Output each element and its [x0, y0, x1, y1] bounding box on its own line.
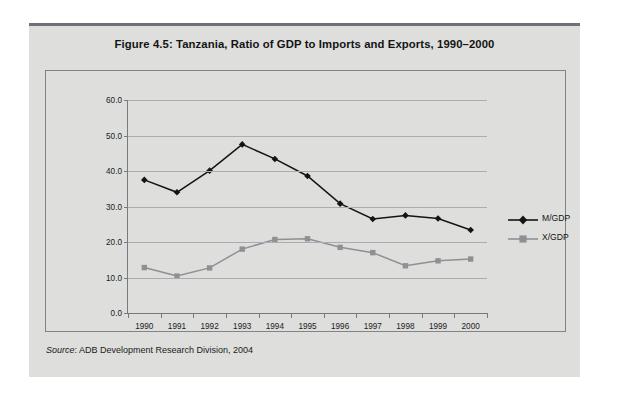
legend-item-x-gdp: X/GDP [508, 232, 588, 251]
y-axis-tick-label: 50.0 [106, 131, 122, 140]
y-axis-tick [124, 242, 128, 243]
legend-label-m-gdp: M/GDP [542, 213, 570, 223]
x-axis-tick-label: 1990 [135, 322, 153, 331]
source-text: : ADB Development Research Division, 200… [75, 345, 254, 355]
gridline [128, 207, 487, 208]
x-axis-tick-label: 1998 [396, 322, 414, 331]
x-axis-tick [291, 313, 292, 318]
y-axis-tick-label: 20.0 [106, 238, 122, 247]
x-axis-tick [226, 313, 227, 318]
x-axis-tick-label: 1991 [168, 322, 186, 331]
x-axis-tick-label: 2000 [462, 322, 480, 331]
data-point-marker [370, 250, 375, 255]
x-axis-tick-label: 1993 [233, 322, 251, 331]
legend-marker-diamond-icon [508, 213, 538, 227]
data-point-marker [435, 215, 442, 222]
gridline [128, 278, 487, 279]
gridline [128, 171, 487, 172]
x-axis-tick [324, 313, 325, 318]
figure-page: Figure 4.5: Tanzania, Ratio of GDP to Im… [0, 0, 618, 398]
data-point-marker [402, 212, 409, 219]
source-note: Source: ADB Development Research Divisio… [46, 345, 253, 355]
data-point-marker [240, 246, 245, 251]
plot-area: 0.010.020.030.040.050.060.01990199119921… [127, 100, 487, 314]
data-point-marker [369, 216, 376, 223]
gridline [128, 100, 487, 101]
x-axis-tick [356, 313, 357, 318]
y-axis-tick-label: 10.0 [106, 273, 122, 282]
data-point-marker [467, 227, 474, 234]
x-axis-tick-label: 1992 [200, 322, 218, 331]
data-point-marker [468, 256, 473, 261]
data-point-marker [141, 177, 148, 184]
x-axis-tick [128, 313, 129, 318]
x-axis-tick-label: 1996 [331, 322, 349, 331]
x-axis-tick-label: 1999 [429, 322, 447, 331]
x-axis-tick-label: 1994 [266, 322, 284, 331]
series-line-x-gdp [144, 239, 470, 276]
legend-label-x-gdp: X/GDP [542, 232, 569, 242]
x-axis-tick [161, 313, 162, 318]
x-axis-tick [193, 313, 194, 318]
x-axis-tick [487, 313, 488, 318]
data-point-marker [403, 263, 408, 268]
y-axis-tick [124, 100, 128, 101]
y-axis-tick [124, 171, 128, 172]
chart-legend: M/GDP X/GDP [508, 213, 588, 251]
x-axis-tick-label: 1995 [298, 322, 316, 331]
source-label: Source [46, 345, 75, 355]
x-axis-tick [259, 313, 260, 318]
y-axis-tick [124, 207, 128, 208]
data-point-marker [142, 265, 147, 270]
legend-item-m-gdp: M/GDP [508, 213, 588, 232]
gridline [128, 136, 487, 137]
y-axis-tick-label: 0.0 [111, 309, 122, 318]
y-axis-tick [124, 136, 128, 137]
series-line-m-gdp [144, 144, 470, 230]
figure-panel: Figure 4.5: Tanzania, Ratio of GDP to Im… [29, 26, 580, 377]
data-point-marker [305, 236, 310, 241]
gridline [128, 242, 487, 243]
data-point-marker [337, 245, 342, 250]
data-point-marker [207, 265, 212, 270]
figure-title: Figure 4.5: Tanzania, Ratio of GDP to Im… [29, 38, 580, 50]
y-axis-tick-label: 40.0 [106, 167, 122, 176]
x-axis-tick-label: 1997 [364, 322, 382, 331]
data-point-marker [435, 258, 440, 263]
y-axis-tick-label: 60.0 [106, 96, 122, 105]
chart-frame: 0.010.020.030.040.050.060.01990199119921… [45, 70, 566, 332]
data-point-marker [272, 156, 279, 163]
y-axis-tick-label: 30.0 [106, 202, 122, 211]
legend-marker-square-icon [508, 232, 538, 246]
x-axis-tick [422, 313, 423, 318]
x-axis-tick [389, 313, 390, 318]
y-axis-tick [124, 278, 128, 279]
x-axis-tick [454, 313, 455, 318]
